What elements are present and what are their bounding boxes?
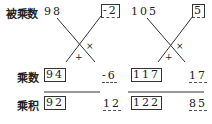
- right-product-back: 85: [189, 97, 207, 111]
- right-multiplicand-complement: 5: [192, 4, 205, 18]
- right-multiplier: 117: [131, 68, 162, 82]
- product-label: 乘积: [17, 97, 38, 113]
- left-times-sign: ×: [86, 41, 94, 51]
- right-product-front: 122: [131, 96, 162, 110]
- left-plus-sign: +: [75, 52, 83, 62]
- left-multiplicand-complement: -2: [101, 4, 120, 18]
- right-plus-sign: +: [165, 52, 173, 62]
- right-times-sign: ×: [176, 41, 184, 51]
- left-product-front: 92: [44, 96, 66, 110]
- left-multiplicand: 98: [44, 5, 62, 18]
- multiplier-label: 乘数: [17, 69, 38, 85]
- right-multiplier-complement: 17: [189, 69, 207, 83]
- multiplicand-label: 被乘数: [6, 5, 38, 21]
- left-multiplier-complement: -6: [102, 69, 117, 83]
- left-product-back: 12: [103, 97, 121, 111]
- left-multiplier: 94: [44, 68, 66, 82]
- right-multiplicand: 105: [131, 5, 158, 18]
